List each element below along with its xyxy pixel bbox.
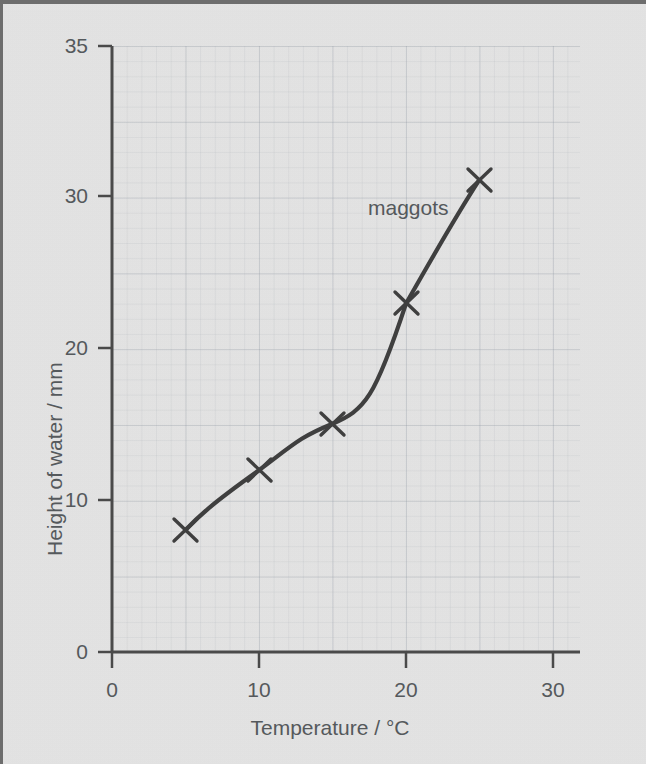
data-point-marker — [468, 169, 491, 191]
y-tick-label-35: 35 — [40, 34, 88, 58]
data-point-marker — [321, 413, 344, 435]
x-tick-label-0: 0 — [82, 678, 142, 702]
data-point-marker — [395, 292, 418, 314]
chart-canvas — [0, 0, 646, 764]
x-tick-label-10: 10 — [229, 678, 289, 702]
series-annotation-maggots: maggots — [368, 196, 449, 220]
figure-page: 35 30 20 10 0 0 10 20 30 Height of water… — [0, 0, 646, 764]
data-curve — [186, 180, 480, 530]
y-tick-label-30: 30 — [40, 184, 88, 208]
x-tick-label-30: 30 — [523, 678, 583, 702]
y-axis-title: Height of water / mm — [43, 362, 67, 556]
y-tick-label-0: 0 — [40, 640, 88, 664]
x-tick-label-20: 20 — [376, 678, 436, 702]
data-point-marker — [248, 459, 271, 481]
data-point-marker — [174, 519, 197, 541]
y-tick-label-20: 20 — [40, 336, 88, 360]
x-axis-title: Temperature / °C — [180, 716, 480, 740]
